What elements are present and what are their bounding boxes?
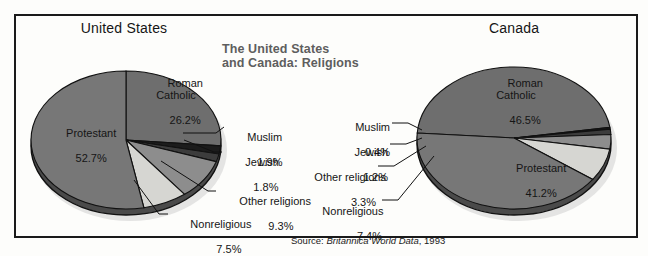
source-note: Source: Britannica World Data, 1993 xyxy=(291,235,445,246)
source-suffix: , 1993 xyxy=(419,235,445,246)
figure-frame: United States RomanCatholic 26.2% Protes… xyxy=(14,14,638,238)
us-callout-nonreligious: Nonreligious 7.5% xyxy=(172,205,252,256)
source-publication: Britannica World Data xyxy=(326,235,418,246)
canada-jewish-name: Jewish xyxy=(354,146,388,158)
canada-muslim-name: Muslim xyxy=(355,121,390,133)
us-leader-jewish xyxy=(184,140,222,152)
us-leader-muslim xyxy=(183,127,224,133)
canada-leader-jewish xyxy=(390,138,422,144)
source-prefix: Source: xyxy=(291,235,326,246)
us-leader-other xyxy=(161,161,216,191)
canada-nonreligious-name: Nonreligious xyxy=(322,205,383,217)
us-other-pct: 9.3% xyxy=(268,220,293,232)
canada-leader-muslim xyxy=(392,123,422,130)
us-leader-nonreligious xyxy=(134,180,168,214)
us-muslim-name: Muslim xyxy=(247,131,282,143)
us-jewish-name: Jewish xyxy=(245,156,279,168)
canada-other-name: Other religions xyxy=(314,171,386,183)
us-nonreligious-pct: 7.5% xyxy=(216,243,241,255)
main-title-line1: The United States xyxy=(222,42,329,56)
figure-root: United States RomanCatholic 26.2% Protes… xyxy=(0,0,648,256)
us-nonreligious-name: Nonreligious xyxy=(190,218,251,230)
